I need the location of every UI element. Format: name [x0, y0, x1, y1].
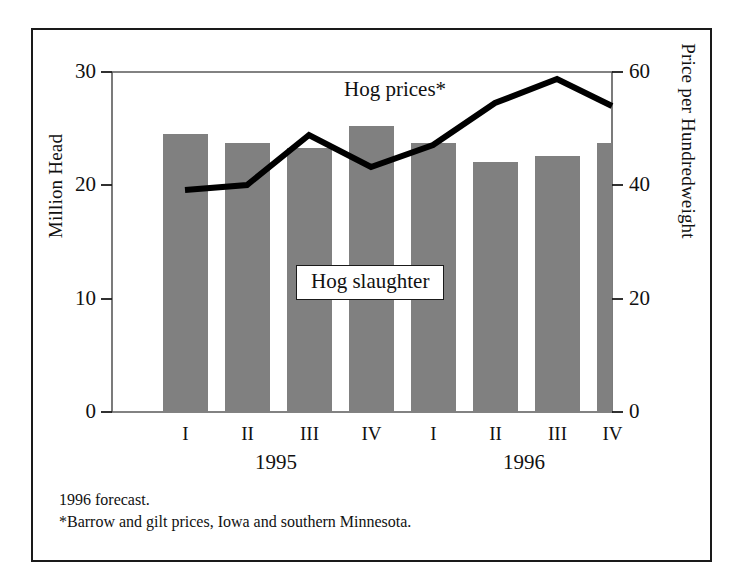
right-axis-title: Price per Hundredweight [677, 0, 699, 291]
chart-figure: Million Head Price per Hundredweight 30 … [0, 0, 738, 588]
series-label-hog-prices: Hog prices* [344, 79, 446, 100]
x-tick-label-3: III [287, 424, 332, 443]
x-tick-label-8: IV [590, 424, 635, 443]
x-tick-label-5: I [411, 424, 456, 443]
bar-1996-II [473, 162, 518, 412]
bar-1996-IV [597, 143, 612, 412]
x-tick-label-4: IV [349, 424, 394, 443]
footnote-line-1: 1996 forecast. [59, 490, 150, 510]
left-tick-label-0: 0 [56, 401, 96, 422]
left-tick-label-10: 10 [56, 288, 96, 309]
right-tick-label-60: 60 [629, 61, 673, 82]
bar-1995-I [163, 134, 208, 412]
right-axis-ticks [612, 72, 623, 412]
bar-1996-III [535, 156, 580, 412]
left-tick-label-20: 20 [56, 174, 96, 195]
left-tick-label-30: 30 [56, 61, 96, 82]
x-group-label-1996: 1996 [464, 452, 584, 473]
x-tick-label-2: II [225, 424, 270, 443]
footnote-line-2: *Barrow and gilt prices, Iowa and southe… [59, 512, 411, 532]
right-tick-label-40: 40 [629, 174, 673, 195]
x-tick-label-6: II [473, 424, 518, 443]
right-tick-label-20: 20 [629, 288, 673, 309]
series-label-hog-slaughter: Hog slaughter [296, 265, 444, 300]
right-tick-label-0: 0 [629, 401, 673, 422]
left-axis-ticks [101, 72, 112, 412]
x-tick-label-7: III [535, 424, 580, 443]
x-group-label-1995: 1995 [216, 452, 336, 473]
x-tick-label-1: I [163, 424, 208, 443]
